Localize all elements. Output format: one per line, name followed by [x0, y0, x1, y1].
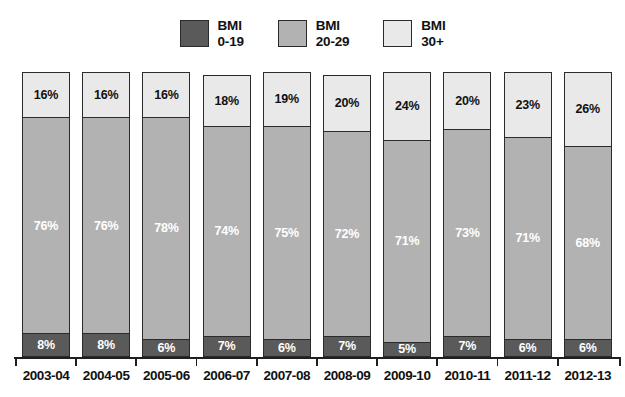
- segment-bmi-0-19-2007-08[interactable]: 6%: [264, 339, 310, 356]
- bar-2012-13[interactable]: 26%68%6%: [564, 72, 612, 357]
- segment-bmi-30-plus-2012-13[interactable]: 26%: [565, 73, 611, 147]
- x-axis-tick: [256, 357, 258, 366]
- segment-bmi-20-29-2011-12[interactable]: 71%: [505, 138, 551, 339]
- bar-2006-07[interactable]: 18%74%7%: [203, 75, 251, 357]
- segment-value-label: 7%: [459, 340, 477, 353]
- segment-bmi-20-29-2008-09[interactable]: 72%: [324, 132, 370, 336]
- x-axis-tick: [376, 357, 378, 366]
- segment-bmi-30-plus-2006-07[interactable]: 18%: [204, 76, 250, 127]
- bar-2009-10[interactable]: 24%71%5%: [383, 72, 431, 357]
- segment-value-label: 16%: [154, 89, 178, 102]
- segment-bmi-30-plus-2010-11[interactable]: 20%: [444, 73, 490, 130]
- x-axis-label-2010-11: 2010-11: [437, 368, 497, 383]
- x-axis-tick: [196, 357, 198, 366]
- x-axis-label-2007-08: 2007-08: [257, 368, 317, 383]
- segment-value-label: 6%: [158, 342, 176, 355]
- stacked-bar-chart: 16%76%8%2003-0416%76%8%2004-0516%78%6%20…: [0, 0, 625, 397]
- bar-2005-06[interactable]: 16%78%6%: [142, 72, 190, 357]
- x-axis-label-2005-06: 2005-06: [136, 368, 196, 383]
- segment-bmi-20-29-2004-05[interactable]: 76%: [83, 118, 129, 333]
- segment-value-label: 78%: [154, 222, 178, 235]
- segment-bmi-30-plus-2011-12[interactable]: 23%: [505, 73, 551, 138]
- segment-value-label: 71%: [515, 232, 539, 245]
- segment-bmi-0-19-2012-13[interactable]: 6%: [565, 339, 611, 356]
- segment-value-label: 6%: [579, 342, 597, 355]
- segment-value-label: 7%: [338, 340, 356, 353]
- segment-bmi-30-plus-2004-05[interactable]: 16%: [83, 73, 129, 118]
- segment-value-label: 23%: [515, 99, 539, 112]
- segment-bmi-0-19-2005-06[interactable]: 6%: [143, 339, 189, 356]
- segment-value-label: 24%: [395, 100, 419, 113]
- bar-2004-05[interactable]: 16%76%8%: [82, 72, 130, 357]
- segment-value-label: 26%: [576, 103, 600, 116]
- segment-bmi-20-29-2007-08[interactable]: 75%: [264, 127, 310, 339]
- x-axis-label-2009-10: 2009-10: [377, 368, 437, 383]
- segment-bmi-30-plus-2008-09[interactable]: 20%: [324, 76, 370, 133]
- x-axis-tick: [316, 357, 318, 366]
- segment-value-label: 76%: [34, 220, 58, 233]
- segment-value-label: 20%: [455, 95, 479, 108]
- segment-bmi-30-plus-2005-06[interactable]: 16%: [143, 73, 189, 118]
- x-axis-label-2011-12: 2011-12: [498, 368, 558, 383]
- segment-value-label: 73%: [455, 227, 479, 240]
- x-axis-label-2006-07: 2006-07: [197, 368, 257, 383]
- segment-value-label: 6%: [519, 342, 537, 355]
- x-axis-tick: [619, 357, 621, 366]
- segment-bmi-20-29-2005-06[interactable]: 78%: [143, 118, 189, 339]
- bar-2010-11[interactable]: 20%73%7%: [443, 72, 491, 357]
- bar-2003-04[interactable]: 16%76%8%: [22, 72, 70, 357]
- x-axis-tick: [497, 357, 499, 366]
- segment-bmi-30-plus-2007-08[interactable]: 19%: [264, 73, 310, 127]
- segment-value-label: 72%: [335, 228, 359, 241]
- segment-value-label: 8%: [97, 339, 115, 352]
- segment-bmi-0-19-2010-11[interactable]: 7%: [444, 336, 490, 356]
- segment-bmi-0-19-2006-07[interactable]: 7%: [204, 336, 250, 356]
- bar-2008-09[interactable]: 20%72%7%: [323, 75, 371, 357]
- x-axis-tick: [436, 357, 438, 366]
- segment-value-label: 6%: [278, 342, 296, 355]
- segment-bmi-20-29-2009-10[interactable]: 71%: [384, 141, 430, 342]
- segment-bmi-20-29-2012-13[interactable]: 68%: [565, 147, 611, 339]
- segment-bmi-0-19-2008-09[interactable]: 7%: [324, 336, 370, 356]
- segment-bmi-20-29-2006-07[interactable]: 74%: [204, 127, 250, 336]
- segment-value-label: 68%: [576, 237, 600, 250]
- x-axis-label-2003-04: 2003-04: [16, 368, 76, 383]
- segment-bmi-20-29-2003-04[interactable]: 76%: [23, 118, 69, 333]
- segment-value-label: 16%: [34, 89, 58, 102]
- segment-value-label: 16%: [94, 89, 118, 102]
- segment-value-label: 8%: [37, 339, 55, 352]
- segment-bmi-20-29-2010-11[interactable]: 73%: [444, 130, 490, 337]
- segment-value-label: 20%: [335, 97, 359, 110]
- x-axis-label-2004-05: 2004-05: [76, 368, 136, 383]
- segment-bmi-0-19-2004-05[interactable]: 8%: [83, 333, 129, 356]
- bar-2011-12[interactable]: 23%71%6%: [504, 72, 552, 357]
- segment-bmi-30-plus-2009-10[interactable]: 24%: [384, 73, 430, 141]
- segment-bmi-0-19-2003-04[interactable]: 8%: [23, 333, 69, 356]
- x-axis-tick: [135, 357, 137, 366]
- segment-value-label: 71%: [395, 235, 419, 248]
- segment-bmi-0-19-2011-12[interactable]: 6%: [505, 339, 551, 356]
- bar-2007-08[interactable]: 19%75%6%: [263, 72, 311, 357]
- segment-value-label: 74%: [214, 225, 238, 238]
- x-axis-label-2012-13: 2012-13: [558, 368, 618, 383]
- segment-bmi-0-19-2009-10[interactable]: 5%: [384, 342, 430, 356]
- x-axis-tick: [75, 357, 77, 366]
- segment-value-label: 75%: [275, 227, 299, 240]
- x-axis-label-2008-09: 2008-09: [317, 368, 377, 383]
- x-axis-tick: [15, 357, 17, 366]
- x-axis-tick: [557, 357, 559, 366]
- segment-value-label: 18%: [214, 95, 238, 108]
- segment-value-label: 19%: [275, 93, 299, 106]
- segment-value-label: 5%: [398, 343, 416, 356]
- segment-value-label: 76%: [94, 220, 118, 233]
- segment-bmi-30-plus-2003-04[interactable]: 16%: [23, 73, 69, 118]
- segment-value-label: 7%: [218, 340, 236, 353]
